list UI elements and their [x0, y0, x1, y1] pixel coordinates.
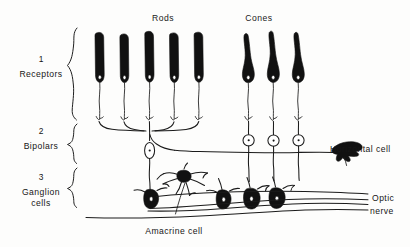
cone-1-nucleus	[247, 76, 250, 80]
layer-3-name: Ganglion	[22, 187, 60, 197]
layer-label-ganglion-cells: 3 Ganglion cells	[22, 172, 60, 208]
horizontal-cell-label: Horizontal cell	[330, 144, 391, 154]
layer-2-name: Bipolars	[24, 141, 59, 151]
brace-ganglion	[68, 168, 78, 208]
rod-2-nucleus	[123, 76, 126, 80]
cone-2	[267, 31, 279, 119]
cones-header-label: Cones	[245, 13, 272, 23]
cone-bipolar-1	[243, 121, 254, 182]
rod-1-nucleus	[98, 75, 101, 79]
rod-5	[194, 32, 203, 119]
rod-2	[120, 34, 129, 119]
rod-bipolar-nucleus-dot	[149, 149, 151, 151]
cone-bipolar-2	[268, 121, 279, 181]
optic-nerve-fibers: Optic nerve	[86, 191, 395, 218]
layer-1-number: 1	[39, 54, 44, 64]
rod-5-nucleus	[197, 75, 200, 79]
rod-1	[95, 32, 104, 119]
ganglion-cell-2-nucleus	[222, 197, 225, 201]
rod-receptor-group	[95, 31, 203, 119]
layer-1-name: Receptors	[19, 69, 62, 79]
cone-3-nucleus	[297, 76, 300, 80]
cone-3	[292, 32, 304, 119]
layer-3-name-line2: cells	[31, 198, 50, 208]
brace-receptors	[68, 28, 78, 120]
rod-4-nucleus	[173, 75, 176, 79]
cone-2-nucleus	[272, 75, 275, 79]
cone-bipolar-group	[243, 121, 304, 182]
cone-1	[242, 34, 254, 119]
cone-bipolar-3-nucleus-dot	[298, 139, 300, 141]
retina-circuit-diagram: Rods Cones 1 Receptors 2 Bipolars 3 Gang…	[0, 0, 410, 247]
cone-bipolar-2-nucleus-dot	[273, 140, 275, 142]
ganglion-cell-3	[244, 178, 269, 210]
optic-nerve-label-line2: nerve	[370, 206, 394, 216]
layer-2-number: 2	[39, 126, 44, 136]
layer-3-number: 3	[39, 172, 44, 182]
amacrine-cell-label: Amacrine cell	[145, 226, 202, 236]
rod-3-nucleus	[148, 75, 151, 79]
ganglion-cell-3-nucleus	[250, 197, 253, 201]
layer-label-bipolars: 2 Bipolars	[24, 126, 59, 151]
optic-nerve-label-line1: Optic	[372, 193, 395, 203]
cone-bipolar-1-nucleus-dot	[248, 139, 250, 141]
layer-label-receptors: 1 Receptors	[19, 54, 62, 79]
cone-receptor-group	[242, 31, 304, 119]
rod-4	[169, 33, 178, 119]
rod-3	[145, 31, 154, 119]
figure-canvas: Rods Cones 1 Receptors 2 Bipolars 3 Gang…	[0, 0, 410, 247]
cone-bipolar-3	[293, 121, 304, 181]
brace-bipolars	[68, 124, 78, 164]
ganglion-cell-1	[134, 188, 167, 209]
rods-header-label: Rods	[152, 13, 174, 23]
ganglion-cell-1-nucleus	[150, 197, 153, 201]
